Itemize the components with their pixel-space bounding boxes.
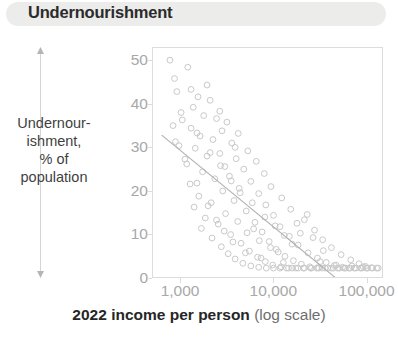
x-axis-tick-mark [273, 278, 274, 283]
page-title: Undernourishment [28, 3, 172, 22]
scatter-point[interactable] [217, 151, 223, 157]
scatter-point[interactable] [279, 195, 285, 201]
scatter-point[interactable] [263, 202, 269, 208]
scatter-point[interactable] [187, 181, 193, 187]
y-axis-ticks: 01020304050 [106, 47, 148, 278]
scatter-point[interactable] [248, 263, 254, 269]
y-axis-tick-label: 10 [112, 225, 148, 243]
scatter-point[interactable] [196, 193, 202, 199]
scatter-point[interactable] [338, 252, 344, 258]
scatter-point[interactable] [329, 245, 335, 251]
scatter-point[interactable] [192, 145, 198, 151]
scatter-point[interactable] [258, 255, 264, 261]
scatter-point[interactable] [348, 257, 354, 263]
scatter-point[interactable] [190, 104, 196, 110]
scatter-point[interactable] [304, 212, 310, 218]
scatter-point[interactable] [188, 125, 194, 131]
scatter-point[interactable] [252, 219, 258, 225]
scatter-point[interactable] [178, 110, 184, 116]
y-axis-tick-label: 40 [112, 95, 148, 113]
scatter-point[interactable] [244, 230, 250, 236]
scatter-point[interactable] [294, 220, 300, 226]
scatter-point[interactable] [232, 144, 238, 150]
x-axis-tick-label: 10,000 [250, 282, 297, 300]
scatter-point[interactable] [268, 245, 274, 251]
scatter-point[interactable] [256, 191, 262, 197]
y-axis-tick-mark [147, 191, 152, 192]
scatter-point[interactable] [191, 204, 197, 210]
scatter-point[interactable] [174, 89, 180, 95]
scatter-point[interactable] [251, 226, 257, 232]
scatter-point[interactable] [201, 113, 207, 119]
scatter-point[interactable] [240, 260, 246, 266]
scatter-point[interactable] [204, 82, 210, 88]
scatter-point[interactable] [218, 244, 224, 250]
scatter-point[interactable] [173, 139, 179, 145]
scatter-point[interactable] [202, 215, 208, 221]
scatter-point[interactable] [185, 64, 191, 70]
scatter-point[interactable] [248, 178, 254, 184]
scatter-point[interactable] [310, 235, 316, 241]
scatter-point[interactable] [217, 108, 223, 114]
scatter-point[interactable] [245, 148, 251, 154]
y-axis-tick-mark [147, 234, 152, 235]
scatter-point[interactable] [323, 260, 329, 266]
scatter-point[interactable] [235, 131, 241, 137]
scatter-point[interactable] [266, 239, 272, 245]
scatter-point[interactable] [238, 240, 244, 246]
scatter-point[interactable] [194, 180, 200, 186]
scatter-point[interactable] [198, 226, 204, 232]
scatter-point[interactable] [282, 253, 288, 259]
scatter-point[interactable] [297, 230, 303, 236]
scatter-point[interactable] [228, 232, 234, 238]
x-axis-tick-mark [180, 278, 181, 283]
scatter-point[interactable] [288, 206, 294, 212]
scatter-point[interactable] [268, 184, 274, 190]
scatter-point[interactable] [243, 208, 249, 214]
scatter-point[interactable] [271, 212, 277, 218]
y-axis-tick-label: 50 [112, 51, 148, 69]
y-axis-tick-label: 20 [112, 182, 148, 200]
scatter-point[interactable] [224, 119, 230, 125]
scatter-point[interactable] [241, 166, 247, 172]
scatter-point[interactable] [209, 235, 215, 241]
scatter-point[interactable] [232, 256, 238, 262]
x-axis-title: 2022 income per person (log scale) [0, 306, 398, 324]
y-axis-tick-label: 30 [112, 138, 148, 156]
scatter-point[interactable] [289, 265, 295, 271]
scatter-point[interactable] [235, 219, 241, 225]
scatter-plot-area[interactable] [152, 47, 383, 278]
scatter-point[interactable] [290, 258, 296, 264]
scatter-point[interactable] [220, 188, 226, 194]
scatter-point[interactable] [249, 200, 255, 206]
scatter-point[interactable] [223, 211, 229, 217]
scatter-point[interactable] [259, 229, 265, 235]
scatter-points [167, 57, 381, 271]
scatter-point[interactable] [256, 238, 262, 244]
scatter-point[interactable] [207, 97, 213, 103]
scatter-point[interactable] [231, 198, 237, 204]
scatter-point[interactable] [172, 76, 178, 82]
scatter-point[interactable] [221, 228, 227, 234]
scatter-point[interactable] [170, 123, 176, 129]
scatter-point[interactable] [256, 264, 262, 270]
scatter-point[interactable] [261, 171, 267, 177]
x-axis-ticks: 1,00010,000100,000 [0, 282, 398, 302]
scatter-point[interactable] [219, 128, 225, 134]
x-axis-tick-mark [367, 278, 368, 283]
scatter-point[interactable] [312, 227, 318, 233]
scatter-point[interactable] [179, 117, 185, 123]
scatter-point[interactable] [210, 137, 216, 143]
scatter-point[interactable] [233, 156, 239, 162]
scatter-point[interactable] [320, 237, 326, 243]
scatter-point[interactable] [167, 57, 173, 63]
scatter-point[interactable] [253, 158, 259, 164]
scatter-point[interactable] [195, 94, 201, 100]
scatter-point[interactable] [214, 116, 220, 122]
scatter-point[interactable] [225, 251, 231, 257]
scatter-point[interactable] [263, 265, 269, 271]
x-axis-title-note: (log scale) [254, 306, 326, 323]
scatter-point[interactable] [320, 248, 326, 254]
scatter-point[interactable] [188, 87, 194, 93]
scatter-point[interactable] [230, 239, 236, 245]
